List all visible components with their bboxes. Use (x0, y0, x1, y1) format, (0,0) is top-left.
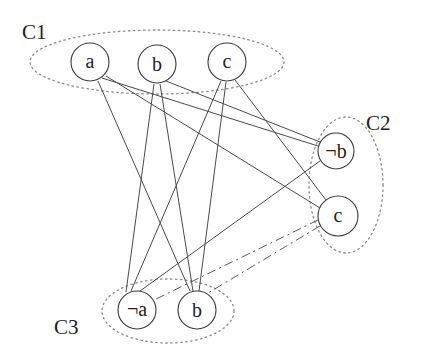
edge-c2-nota (154, 220, 318, 300)
node-c: c (208, 43, 246, 81)
edge-b-nota (126, 84, 154, 292)
node-c-label: c (223, 50, 232, 72)
node-c2-label: c (334, 204, 343, 226)
node-c2: c (318, 196, 358, 236)
node-b-label: b (152, 53, 162, 75)
node-not-b-label: ¬b (325, 140, 346, 162)
cluster-c3-label: C3 (54, 315, 79, 339)
constraint-graph-diagram: C1 C2 C3 a b c ¬b c (0, 0, 421, 352)
cluster-c1-label: C1 (22, 20, 47, 44)
node-not-a-label: ¬a (127, 298, 147, 320)
cluster-c2-label: C2 (366, 111, 391, 135)
edges (98, 76, 326, 300)
node-b3: b (178, 291, 216, 329)
edge-a-notb (102, 78, 318, 146)
edge-c2-b3 (208, 226, 320, 293)
node-not-a: ¬a (118, 291, 156, 329)
edge-c-b3 (199, 82, 226, 291)
node-b3-label: b (192, 299, 202, 321)
edge-a-c2 (106, 76, 320, 208)
node-not-b: ¬b (318, 133, 354, 169)
node-b: b (138, 45, 176, 83)
node-a-label: a (86, 50, 95, 72)
node-a: a (71, 43, 109, 81)
edge-c-c2 (235, 80, 326, 200)
edge-notb-nota (140, 161, 320, 291)
